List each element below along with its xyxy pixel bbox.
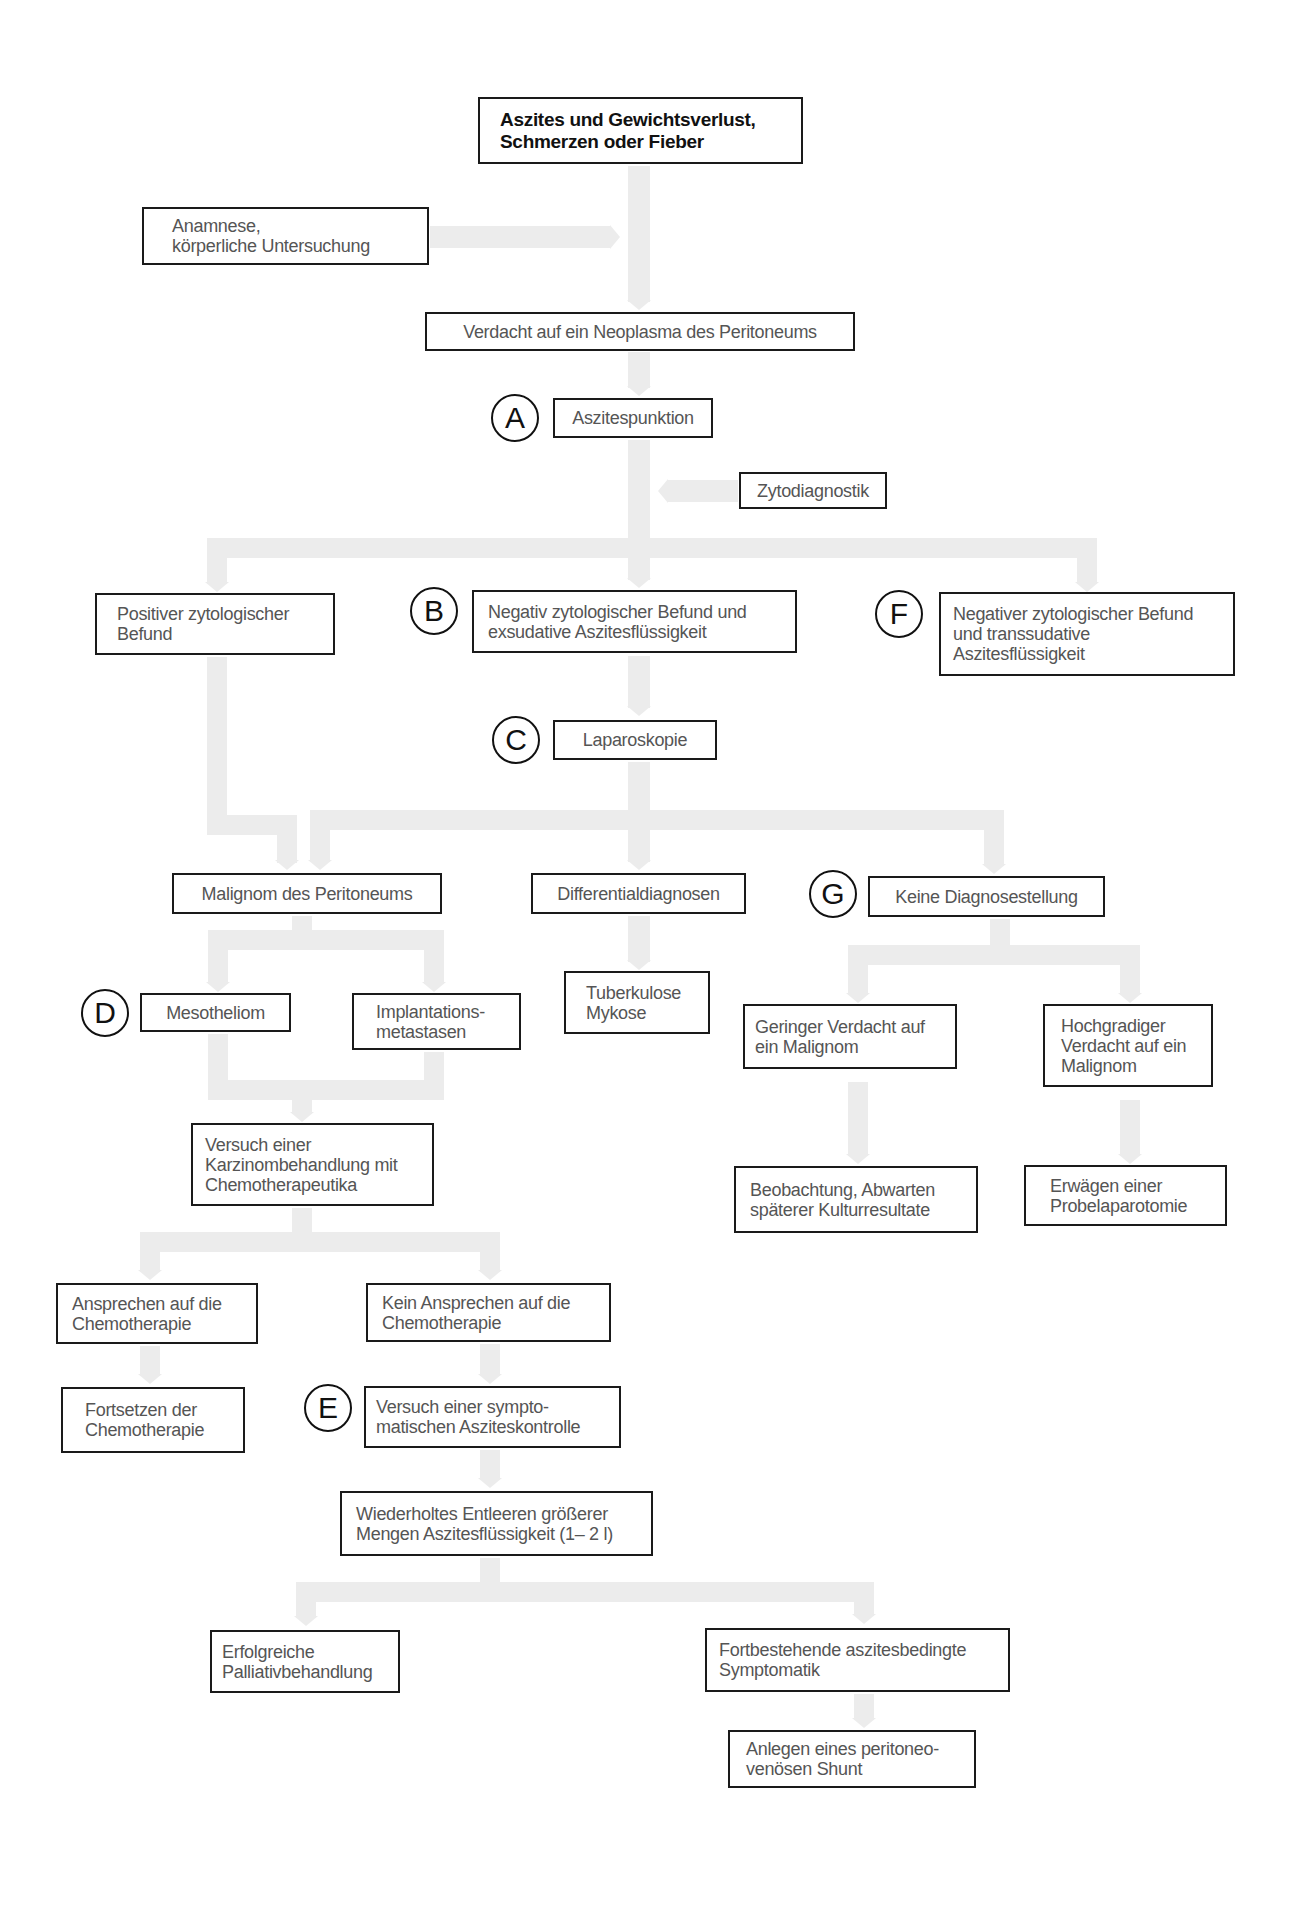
beobachtung-node: Beobachtung, Abwarten späterer Kulturres…: [734, 1166, 978, 1233]
shunt-node: Anlegen eines peritoneo- venösen Shunt: [728, 1730, 976, 1788]
ansprechen-node: Ansprechen auf die Chemotherapie: [56, 1283, 258, 1344]
marker-b-icon: B: [410, 587, 458, 635]
implantation-node: Implantations- metastasen: [352, 993, 521, 1050]
fortsetzen-node: Fortsetzen der Chemotherapie: [61, 1387, 245, 1453]
negativ-transsudat-node: Negativer zytologischer Befund und trans…: [939, 592, 1235, 676]
malignom-node: Malignom des Peritoneums: [172, 873, 442, 914]
marker-c-icon: C: [492, 716, 540, 764]
differential-node: Differentialdiagnosen: [531, 873, 746, 914]
marker-d-icon: D: [81, 989, 129, 1037]
probelaparotomie-node: Erwägen einer Probelaparotomie: [1024, 1165, 1227, 1226]
marker-e-icon: E: [304, 1384, 352, 1432]
marker-f-icon: F: [875, 590, 923, 638]
tuberkulose-node: Tuberkulose Mykose: [564, 971, 710, 1034]
fortbestehend-node: Fortbestehende aszitesbedingte Symptomat…: [705, 1628, 1010, 1692]
symptomatisch-node: Versuch einer sympto- matischen Aszitesk…: [364, 1386, 621, 1448]
negativ-exsudat-node: Negativ zytologischer Befund und exsudat…: [472, 590, 797, 653]
zytodiagnostik-node: Zytodiagnostik: [739, 472, 887, 509]
erfolgreich-node: Erfolgreiche Palliativbehandlung: [210, 1630, 400, 1693]
verdacht-node: Verdacht auf ein Neoplasma des Peritoneu…: [425, 312, 855, 351]
marker-g-icon: G: [809, 870, 857, 918]
keine-diagnose-node: Keine Diagnosestellung: [868, 876, 1105, 917]
start-node: Aszites und Gewichtsverlust, Schmerzen o…: [478, 97, 803, 164]
karzinom-node: Versuch einer Karzinombehandlung mit Che…: [191, 1123, 434, 1206]
kein-ansprechen-node: Kein Ansprechen auf die Chemotherapie: [366, 1283, 611, 1342]
anamnese-node: Anamnese, körperliche Untersuchung: [142, 207, 429, 265]
mesotheliom-node: Mesotheliom: [140, 993, 291, 1032]
laparoskopie-node: Laparoskopie: [553, 720, 717, 760]
marker-a-icon: A: [491, 394, 539, 442]
positiv-node: Positiver zytologischer Befund: [95, 593, 335, 655]
hochgradig-node: Hochgradiger Verdacht auf ein Malignom: [1043, 1004, 1213, 1087]
aszitespunktion-node: Aszitespunktion: [553, 398, 713, 438]
entleeren-node: Wiederholtes Entleeren größerer Mengen A…: [340, 1491, 653, 1556]
geringer-node: Geringer Verdacht auf ein Malignom: [743, 1004, 957, 1069]
